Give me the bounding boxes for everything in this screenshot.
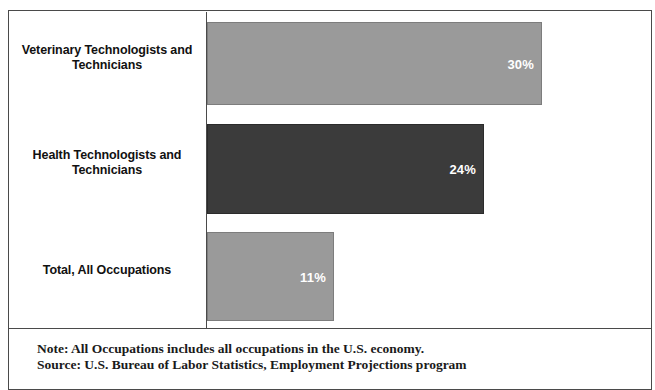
bar-category-label-line1: Health Technologists and	[33, 148, 182, 162]
footnotes: Note: All Occupations includes all occup…	[9, 329, 651, 373]
chart-figure: Veterinary Technologists and Technicians…	[8, 10, 652, 390]
bar[interactable]: 11%	[207, 232, 334, 321]
bar-value-label: 11%	[300, 269, 326, 284]
bar-row: Health Technologists and Technicians 24%	[9, 117, 651, 223]
footnote-note: Note: All Occupations includes all occup…	[37, 341, 651, 357]
bar-category-label: Health Technologists and Technicians	[15, 148, 199, 178]
bar-value-label: 30%	[507, 56, 534, 71]
bar[interactable]: 30%	[207, 22, 542, 105]
bar-category-label-line1: Veterinary Technologists and	[22, 43, 193, 57]
bar-category-label-line1: Total, All Occupations	[43, 263, 171, 277]
bar-value-label: 24%	[449, 162, 476, 177]
bar[interactable]: 24%	[207, 124, 484, 214]
bar-row: Veterinary Technologists and Technicians…	[9, 11, 651, 117]
bar-category-label: Veterinary Technologists and Technicians	[15, 43, 199, 73]
bar-category-label-line2: Technicians	[72, 163, 142, 177]
footnote-source: Source: U.S. Bureau of Labor Statistics,…	[37, 357, 651, 373]
plot-area: Veterinary Technologists and Technicians…	[9, 11, 651, 328]
bar-category-label: Total, All Occupations	[15, 263, 199, 278]
bar-category-label-line2: Technicians	[72, 58, 142, 72]
bar-row: Total, All Occupations 11%	[9, 223, 651, 328]
